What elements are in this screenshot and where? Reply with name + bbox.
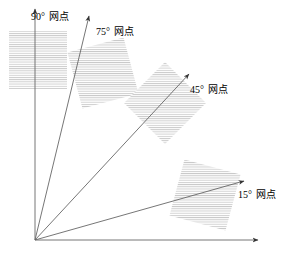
label-15-degree-text: 网点: [256, 189, 276, 200]
label-15-degree-value: 15°: [238, 189, 252, 200]
label-75-degree-value: 75°: [96, 26, 110, 37]
patch-15: [169, 159, 240, 230]
label-75-degree: 75°网点: [96, 26, 134, 38]
screen-angle-diagram: 90°网点 75°网点 45°网点 15°网点: [0, 0, 287, 257]
label-45-degree-text: 网点: [208, 84, 228, 95]
label-15-degree: 15°网点: [238, 189, 276, 201]
label-90-degree: 90°网点: [31, 11, 69, 23]
patch-group: [9, 31, 241, 231]
patch-90: [9, 31, 67, 89]
label-75-degree-text: 网点: [114, 26, 134, 37]
label-45-degree-value: 45°: [190, 84, 204, 95]
patch-45: [124, 62, 206, 144]
label-45-degree: 45°网点: [190, 84, 228, 96]
label-90-degree-text: 网点: [49, 11, 69, 22]
diagram-canvas: [0, 0, 287, 257]
label-90-degree-value: 90°: [31, 11, 45, 22]
patch-75: [67, 37, 138, 108]
